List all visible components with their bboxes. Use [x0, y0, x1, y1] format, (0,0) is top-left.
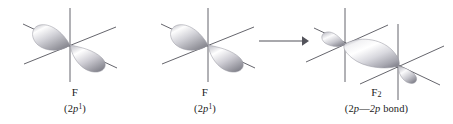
label-block-middle: F (2p1) — [150, 86, 260, 115]
p-orbital-lobe-outer-lower-right — [398, 66, 417, 83]
bond-description-f2: (2p—2p bond) — [300, 102, 453, 115]
bond-suffix: ) — [405, 103, 409, 114]
bond-orbital-2: 2p — [370, 103, 381, 114]
p-orbital-lobe-lower-right — [208, 45, 243, 72]
panel-fluorine-molecule: F2 (2p—2p bond) — [300, 0, 453, 124]
atom-symbol-text: F — [202, 86, 208, 98]
bond-dash: — — [359, 103, 370, 114]
bond-word: bond — [380, 103, 404, 114]
molecule-symbol-f2: F2 — [300, 86, 453, 100]
atom-symbol-left: F — [0, 86, 150, 100]
config-suffix: ) — [82, 103, 86, 114]
config-prefix: (2 — [64, 103, 73, 114]
p-orbital-lobe-lower-right — [70, 45, 105, 72]
sigma-bond-overlap-lobe — [344, 39, 400, 68]
molecule-symbol-subscript: 2 — [378, 90, 382, 99]
label-block-f2: F2 (2p—2p bond) — [300, 86, 453, 116]
p-orbital-lobe-outer-upper-left — [322, 32, 345, 47]
p-orbital-lobe-upper-left — [171, 25, 208, 51]
atom-symbol-middle: F — [150, 86, 260, 100]
panel-fluorine-left: F (2p1) — [0, 0, 150, 124]
orbital-overlap-figure: F (2p1) F (2p1) — [0, 0, 453, 124]
label-block-left: F (2p1) — [0, 86, 150, 115]
config-suffix: ) — [212, 103, 216, 114]
electron-config-middle: (2p1) — [150, 102, 260, 116]
config-prefix: (2 — [194, 103, 203, 114]
bond-prefix: (2 — [345, 103, 354, 114]
atom-symbol-text: F — [72, 86, 78, 98]
p-orbital-lobe-upper-left — [33, 25, 70, 51]
panel-fluorine-middle: F (2p1) — [150, 0, 260, 124]
electron-config-left: (2p1) — [0, 102, 150, 116]
